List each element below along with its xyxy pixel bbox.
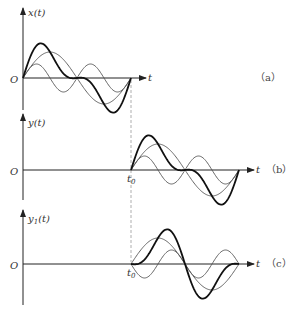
signal-diagram: x(t) O t （a） y(t) O t t0 （b） y1(t) O t t… [0, 0, 297, 316]
panel-a-tag: （a） [255, 72, 281, 83]
panel-c-t-label: t [256, 258, 261, 269]
panel-c-t0-label: t0 [127, 267, 136, 280]
panel-b-t-label: t [256, 164, 261, 175]
panel-c-y-label: y1(t) [27, 213, 50, 226]
panel-c: y1(t) O t t0 （c） [10, 210, 292, 305]
panel-b-origin-label: O [10, 166, 18, 177]
panel-a-origin-label: O [10, 74, 18, 85]
panel-b: y(t) O t t0 （b） [10, 114, 292, 205]
panel-a-t-label: t [148, 72, 153, 83]
panel-c-tag: （c） [266, 258, 292, 269]
panel-a-y-label: x(t) [28, 7, 46, 18]
panel-b-t0-label: t0 [127, 173, 136, 186]
panel-c-origin-label: O [10, 260, 18, 271]
panel-b-y-label: y(t) [27, 117, 46, 128]
panel-a: x(t) O t （a） [10, 7, 281, 113]
panel-b-tag: （b） [266, 164, 292, 175]
